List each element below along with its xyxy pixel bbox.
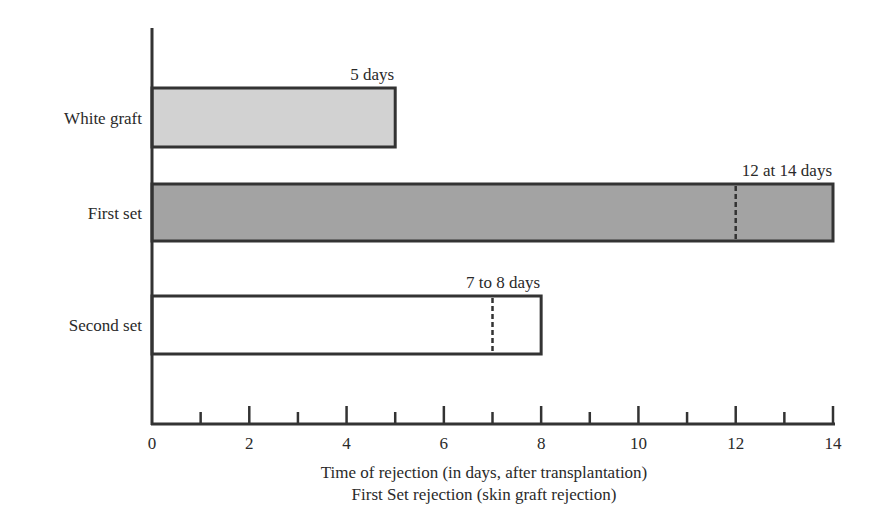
bar-rect <box>152 296 541 354</box>
bar-annotation: 5 days <box>350 65 394 84</box>
category-label: First set <box>88 204 143 223</box>
x-ticks-group <box>201 406 833 424</box>
x-tick-labels-group: 02468101214 <box>148 434 842 453</box>
category-label: White graft <box>64 109 142 128</box>
category-label: Second set <box>69 316 142 335</box>
bars-group: 5 daysWhite graft12 at 14 daysFirst set7… <box>64 65 833 354</box>
bar-second-set: 7 to 8 daysSecond set <box>69 273 541 354</box>
x-tick-label: 8 <box>537 434 546 453</box>
x-tick-label: 6 <box>440 434 449 453</box>
x-tick-label: 4 <box>342 434 351 453</box>
x-tick-label: 10 <box>630 434 647 453</box>
bar-rect <box>152 184 833 241</box>
rejection-time-chart: 5 daysWhite graft12 at 14 daysFirst set7… <box>0 0 885 531</box>
x-tick-label: 14 <box>825 434 843 453</box>
bar-annotation: 12 at 14 days <box>742 161 832 180</box>
x-tick-label: 0 <box>148 434 157 453</box>
x-tick-label: 12 <box>727 434 744 453</box>
x-tick-label: 2 <box>245 434 254 453</box>
bar-rect <box>152 88 395 147</box>
x-axis-label: Time of rejection (in days, after transp… <box>321 463 648 482</box>
bar-annotation: 7 to 8 days <box>466 273 540 292</box>
x-axis-subtitle: First Set rejection (skin graft rejectio… <box>352 485 617 504</box>
bar-first-set: 12 at 14 daysFirst set <box>88 161 833 241</box>
bar-white-graft: 5 daysWhite graft <box>64 65 395 147</box>
